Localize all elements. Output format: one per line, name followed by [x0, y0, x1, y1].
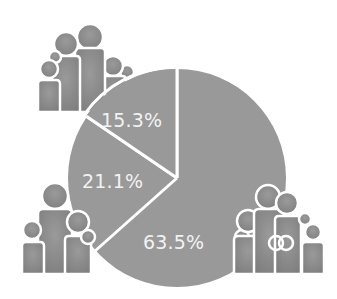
label-21-1: 21.1%: [82, 170, 143, 192]
label-63-5: 63.5%: [143, 231, 204, 253]
pie-chart: 15.3% 21.1% 63.5%: [0, 0, 337, 299]
label-15-3: 15.3%: [101, 109, 162, 131]
